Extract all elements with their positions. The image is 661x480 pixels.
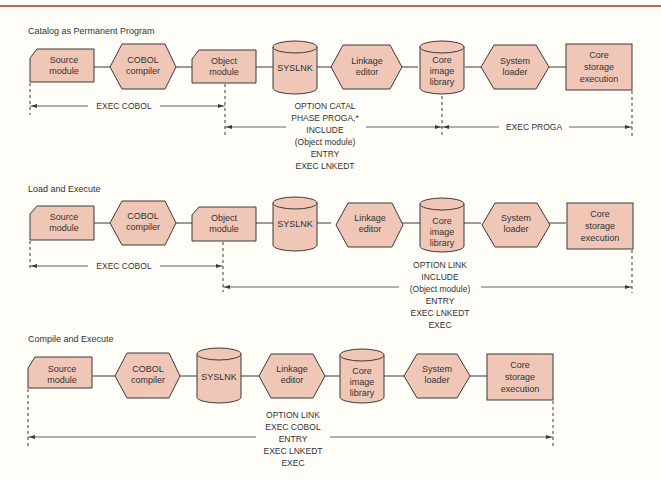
svg-text:module: module	[49, 66, 79, 76]
svg-text:EXEC LNKEDT: EXEC LNKEDT	[263, 446, 322, 456]
svg-text:loader: loader	[424, 375, 449, 385]
svg-text:Core: Core	[432, 55, 452, 65]
svg-text:Core: Core	[352, 366, 372, 376]
svg-text:EXEC PROGA: EXEC PROGA	[506, 122, 563, 132]
node-core-image-library: Core image library	[340, 349, 384, 403]
svg-text:module: module	[49, 223, 79, 233]
node-linkage-editor: Linkage editor	[259, 354, 325, 398]
svg-text:compiler: compiler	[126, 222, 160, 232]
node-system-loader: System loader	[404, 354, 470, 398]
svg-text:COBOL: COBOL	[127, 55, 159, 65]
svg-text:EXEC: EXEC	[428, 320, 451, 330]
svg-text:Linkage: Linkage	[276, 364, 308, 374]
node-linkage-editor: Linkage editor	[336, 203, 403, 247]
section-title: Compile and Execute	[28, 334, 114, 344]
svg-text:execution: execution	[581, 233, 620, 243]
svg-text:EXEC: EXEC	[281, 458, 304, 468]
svg-text:storage: storage	[505, 372, 535, 382]
svg-text:compiler: compiler	[126, 66, 160, 76]
svg-text:SYSLNK: SYSLNK	[277, 219, 313, 229]
svg-text:image: image	[430, 66, 455, 76]
svg-text:INCLUDE: INCLUDE	[421, 272, 459, 282]
node-source-module: Source module	[30, 49, 94, 82]
node-linkage-editor: Linkage editor	[331, 45, 402, 89]
node-cobol-compiler: COBOL compiler	[110, 44, 176, 89]
node-source-module: Source module	[28, 357, 92, 388]
svg-text:editor: editor	[281, 375, 304, 385]
svg-text:Source: Source	[50, 55, 79, 65]
svg-text:compiler: compiler	[131, 375, 165, 385]
svg-text:EXEC LNKEDT: EXEC LNKEDT	[295, 161, 354, 171]
svg-text:execution: execution	[501, 384, 540, 394]
svg-text:Linkage: Linkage	[354, 213, 386, 223]
span-link-edit: OPTION CATAL PHASE PROGA,* INCLUDE (Obje…	[225, 99, 442, 174]
jcl-flow-diagram: Catalog as Permanent Program Source modu…	[0, 0, 661, 480]
svg-text:image: image	[430, 227, 455, 237]
svg-text:(Object module): (Object module)	[410, 284, 471, 294]
svg-text:COBOL: COBOL	[132, 364, 164, 374]
svg-text:EXEC COBOL: EXEC COBOL	[96, 261, 152, 271]
svg-text:Object: Object	[211, 56, 238, 66]
node-syslnk: SYSLNK	[197, 348, 241, 403]
node-core-storage-execution: Core storage execution	[567, 203, 633, 249]
svg-text:library: library	[350, 388, 375, 398]
svg-text:EXEC COBOL: EXEC COBOL	[265, 422, 321, 432]
svg-text:execution: execution	[580, 74, 619, 84]
svg-text:module: module	[209, 224, 239, 234]
svg-text:storage: storage	[585, 221, 615, 231]
svg-text:SYSLNK: SYSLNK	[201, 372, 237, 382]
section-title: Load and Execute	[28, 184, 101, 194]
svg-text:COBOL: COBOL	[127, 211, 159, 221]
svg-text:EXEC COBOL: EXEC COBOL	[96, 101, 152, 111]
svg-text:System: System	[501, 213, 531, 223]
node-system-loader: System loader	[482, 203, 550, 247]
span-exec-proga: EXEC PROGA	[442, 120, 632, 133]
node-cobol-compiler: COBOL compiler	[110, 201, 176, 245]
svg-text:Source: Source	[48, 364, 77, 374]
svg-text:module: module	[209, 67, 239, 77]
svg-text:storage: storage	[584, 62, 614, 72]
svg-text:loader: loader	[502, 67, 527, 77]
svg-text:INCLUDE: INCLUDE	[306, 125, 344, 135]
node-object-module: Object module	[192, 207, 256, 241]
svg-text:Core: Core	[590, 209, 610, 219]
svg-text:OPTION LINK: OPTION LINK	[413, 260, 467, 270]
section-catalog: Catalog as Permanent Program Source modu…	[28, 26, 632, 174]
node-system-loader: System loader	[481, 45, 549, 89]
node-core-image-library: Core image library	[420, 198, 464, 252]
svg-text:System: System	[500, 56, 530, 66]
span-exec-cobol: EXEC COBOL	[30, 99, 225, 112]
svg-text:Linkage: Linkage	[351, 56, 383, 66]
svg-text:Core: Core	[510, 360, 530, 370]
span-link-execute: OPTION LINK INCLUDE (Object module) ENTR…	[223, 257, 632, 332]
svg-text:editor: editor	[359, 224, 382, 234]
svg-text:ENTRY: ENTRY	[311, 149, 340, 159]
svg-text:OPTION CATAL: OPTION CATAL	[294, 101, 355, 111]
node-source-module: Source module	[30, 206, 94, 240]
node-core-storage-execution: Core storage execution	[487, 354, 553, 400]
node-object-module: Object module	[192, 50, 256, 83]
section-load-execute: Load and Execute Source module COBOL com…	[28, 184, 633, 332]
node-syslnk: SYSLNK	[273, 197, 317, 251]
svg-text:Core: Core	[432, 216, 452, 226]
svg-text:(Object module): (Object module)	[295, 137, 356, 147]
svg-text:Core: Core	[589, 50, 609, 60]
node-syslnk: SYSLNK	[273, 41, 317, 94]
svg-text:SYSLNK: SYSLNK	[277, 63, 313, 73]
node-cobol-compiler: COBOL compiler	[115, 353, 180, 398]
section-compile-execute: Compile and Execute Source module COBOL …	[28, 334, 553, 470]
svg-text:OPTION LINK: OPTION LINK	[266, 410, 320, 420]
svg-text:module: module	[47, 375, 77, 385]
svg-text:System: System	[422, 364, 452, 374]
svg-text:editor: editor	[356, 67, 379, 77]
svg-text:image: image	[350, 377, 375, 387]
span-exec-cobol: EXEC COBOL	[30, 259, 223, 272]
span-compile-link-execute: OPTION LINK EXEC COBOL ENTRY EXEC LNKEDT…	[28, 407, 553, 470]
svg-text:EXEC LNKEDT: EXEC LNKEDT	[410, 308, 469, 318]
node-core-storage-execution: Core storage execution	[566, 44, 632, 90]
svg-text:ENTRY: ENTRY	[426, 296, 455, 306]
section-title: Catalog as Permanent Program	[28, 26, 155, 36]
svg-text:ENTRY: ENTRY	[279, 434, 308, 444]
svg-text:library: library	[430, 77, 455, 87]
svg-text:PHASE PROGA,*: PHASE PROGA,*	[291, 113, 359, 123]
